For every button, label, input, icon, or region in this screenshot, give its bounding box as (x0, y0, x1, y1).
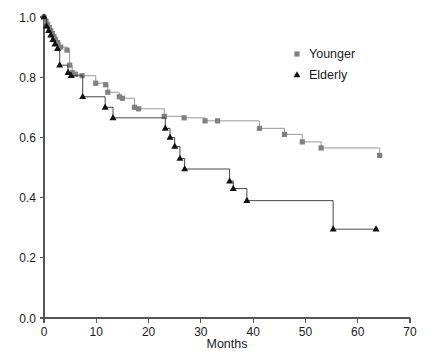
x-tick-label: 40 (246, 325, 260, 339)
data-point-marker-square (282, 132, 287, 137)
y-tick-label: 0.2 (19, 251, 36, 265)
data-point-marker-square (215, 118, 220, 123)
y-tick-label: 0.8 (19, 71, 36, 85)
data-point-marker-triangle (226, 177, 233, 183)
data-point-marker-triangle (162, 125, 169, 131)
data-point-marker-triangle (330, 225, 337, 231)
x-tick-label: 10 (90, 325, 104, 339)
y-tick-label: 1.0 (19, 11, 36, 25)
data-point-marker-triangle (102, 103, 109, 109)
data-point-marker-triangle (171, 143, 178, 149)
data-point-marker-triangle (176, 155, 183, 161)
legend-label: Younger (309, 47, 355, 61)
data-point-marker-triangle (79, 93, 86, 99)
data-point-marker-square (202, 118, 207, 123)
y-tick-label: 0.4 (19, 191, 36, 205)
series-younger (41, 14, 382, 158)
data-point-marker-triangle (110, 114, 117, 120)
series-elderly (41, 13, 380, 231)
data-point-marker-square (136, 106, 141, 111)
survival-step-line (44, 17, 380, 155)
series-layer (41, 13, 383, 231)
data-point-marker-triangle (243, 197, 250, 203)
y-tick-label: 0.0 (19, 312, 36, 326)
data-point-marker-triangle (181, 165, 188, 171)
x-tick-label: 60 (351, 325, 365, 339)
y-axis: 0.00.20.40.60.81.0 (19, 11, 44, 326)
x-tick-label: 50 (299, 325, 313, 339)
x-tick-label: 70 (403, 325, 417, 339)
legend-item-elderly: Elderly (294, 68, 348, 82)
data-point-marker-square (377, 153, 382, 158)
data-point-marker-square (64, 48, 69, 53)
data-point-marker-square (182, 115, 187, 120)
legend-label: Elderly (309, 68, 348, 82)
data-point-marker-triangle (230, 185, 237, 191)
survival-chart: 0.00.20.40.60.81.0 010203040506070 Young… (0, 0, 434, 355)
chart-legend: YoungerElderly (294, 47, 356, 82)
data-point-marker-square (93, 81, 98, 86)
data-point-marker-square (319, 145, 324, 150)
x-tick-label: 0 (41, 325, 48, 339)
data-point-marker-triangle (294, 71, 301, 77)
x-axis: 010203040506070 (41, 318, 417, 339)
legend-item-younger: Younger (294, 47, 355, 61)
x-tick-label: 20 (142, 325, 156, 339)
data-point-marker-square (120, 96, 125, 101)
data-point-marker-triangle (373, 225, 380, 231)
plot-canvas: 0.00.20.40.60.81.0 010203040506070 Young… (0, 0, 434, 355)
x-axis-title: Months (207, 337, 248, 351)
data-point-marker-square (300, 139, 305, 144)
data-point-marker-triangle (56, 61, 63, 67)
y-tick-label: 0.6 (19, 131, 36, 145)
data-point-marker-triangle (167, 134, 174, 140)
data-point-marker-square (103, 82, 108, 87)
data-point-marker-square (294, 51, 299, 56)
data-point-marker-square (105, 90, 110, 95)
data-point-marker-square (257, 126, 262, 131)
